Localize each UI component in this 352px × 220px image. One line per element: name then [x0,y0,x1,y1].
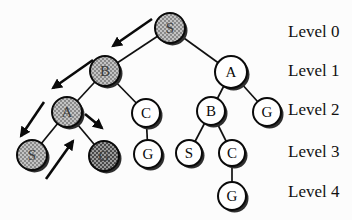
node-s-level0: S [155,13,185,43]
node-label: G [99,148,110,164]
node-label: G [227,188,238,204]
node-label: A [62,104,73,120]
node-label: A [226,64,237,80]
node-c-level3: C [219,140,245,166]
node-g-level4: G [218,182,246,210]
node-g-under-c-level3: G [134,140,162,168]
node-g-goal-level3: G [89,141,119,171]
node-label: G [262,104,273,120]
node-g-level2: G [253,98,281,126]
node-label: C [141,105,151,121]
search-tree-figure: S B A A C B G [0,0,352,220]
node-label: B [206,103,216,119]
arrow-a-to-s [21,102,44,136]
node-c-level2: C [132,99,160,127]
node-s-under-b-level3: S [176,140,202,166]
node-label: S [166,20,174,36]
node-a-level2: A [52,97,82,127]
level-label-3: Level 3 [288,142,339,161]
node-label: B [100,63,110,79]
level-label-1: Level 1 [288,61,339,80]
node-s-level3: S [17,140,47,170]
node-b-level2: B [197,97,225,125]
node-label: S [185,145,193,161]
node-label: S [28,147,36,163]
node-label: C [227,145,237,161]
level-labels: Level 0 Level 1 Level 2 Level 3 Level 4 [288,22,340,201]
level-label-0: Level 0 [288,22,339,41]
node-b-level1: B [90,56,120,86]
node-a-level1: A [215,56,247,88]
level-label-2: Level 2 [288,100,339,119]
arrow-backtrack-s-to-a [46,141,73,179]
arrow-b-to-a [53,60,93,88]
arrow-s-to-b [113,19,152,46]
search-tree-svg: S B A A C B G [0,0,352,220]
arrow-a-to-g [85,114,102,128]
level-label-4: Level 4 [288,182,340,201]
node-label: G [143,146,154,162]
